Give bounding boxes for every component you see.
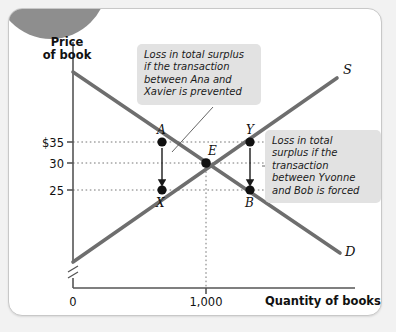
- y-tick-label-30: 30: [32, 157, 64, 171]
- x-tick-label-0: 0: [62, 295, 84, 309]
- point-label-Y: Y: [246, 123, 254, 137]
- figure-root: Priceof book Quantity of books $35 30 25…: [0, 0, 396, 332]
- y-tick-marks: [67, 142, 73, 190]
- callout-yvonne-bob: Loss in total surplus if the transaction…: [265, 130, 381, 203]
- callout-yvonne-bob-line-3: transaction: [272, 160, 374, 172]
- callout-yvonne-bob-line-4: between Yvonne: [272, 172, 374, 184]
- callout-ana-xavier-line-1: Loss in total surplus: [144, 49, 254, 61]
- point-B: [245, 185, 254, 194]
- y-tick-label-25: 25: [32, 184, 64, 198]
- point-label-B: B: [245, 196, 254, 210]
- callout-yvonne-bob-line-5: and Bob is forced: [272, 185, 374, 197]
- callout-ana-xavier-line-4: Xavier is prevented: [144, 86, 254, 98]
- x-axis-title: Quantity of books: [265, 294, 381, 308]
- point-E: [201, 158, 211, 168]
- point-A: [157, 137, 166, 146]
- callout-ana-xavier: Loss in total surplus if the transaction…: [137, 44, 261, 105]
- axis-break-icon: [68, 266, 78, 278]
- point-label-A: A: [157, 123, 166, 137]
- point-X: [157, 185, 166, 194]
- point-Y: [245, 137, 254, 146]
- point-label-X: X: [156, 196, 165, 210]
- callout-yvonne-bob-line-1: Loss in total: [272, 135, 374, 147]
- point-label-E: E: [208, 144, 217, 158]
- x-tick-label-1000: 1,000: [180, 295, 232, 309]
- callout-leader-ana-xavier: [172, 107, 213, 152]
- y-tick-label-35: $35: [32, 136, 64, 150]
- y-axis-title: Priceof book: [36, 36, 98, 62]
- curve-label-supply: S: [343, 62, 352, 77]
- callout-ana-xavier-line-3: between Ana and: [144, 74, 254, 86]
- curve-label-demand: D: [345, 244, 355, 259]
- callout-ana-xavier-line-2: if the transaction: [144, 61, 254, 73]
- callout-yvonne-bob-line-2: surplus if the: [272, 147, 374, 159]
